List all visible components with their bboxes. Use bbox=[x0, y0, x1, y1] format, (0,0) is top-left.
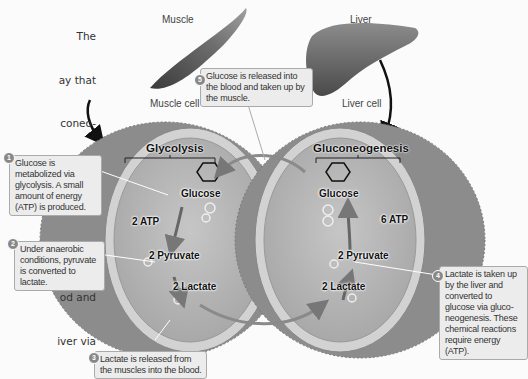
liver-label: Liver bbox=[350, 14, 372, 25]
muscle-glucose-label: Glucose bbox=[181, 188, 220, 199]
muscle-pyruvate-label: 2 Pyruvate bbox=[149, 250, 200, 261]
glycolysis-title: Glycolysis bbox=[146, 142, 204, 154]
callout-step-2: Under anaerobic conditions, pyruvate is … bbox=[14, 241, 105, 291]
muscle-lactate-label: 2 Lactate bbox=[173, 281, 216, 292]
callout-step-1: Glucose is metabolized via glycolysis. A… bbox=[9, 155, 102, 216]
liver-organ bbox=[306, 23, 418, 96]
step-4-badge: 4 bbox=[432, 270, 444, 282]
muscle-label: Muscle bbox=[162, 14, 194, 25]
liver-cell-label: Liver cell bbox=[342, 98, 381, 109]
liver-glucose-label: Glucose bbox=[319, 188, 358, 199]
callout-step-5: Glucose is released into the blood and t… bbox=[200, 68, 313, 107]
step-5-badge: 5 bbox=[194, 74, 206, 86]
step-3-badge: 3 bbox=[88, 352, 100, 364]
callout-step-4: Lactate is taken up by the liver and con… bbox=[439, 266, 528, 360]
muscle-atp-label: 2 ATP bbox=[132, 216, 159, 227]
step-1-badge: 1 bbox=[3, 152, 15, 164]
gluconeogenesis-title: Gluconeogenesis bbox=[313, 142, 409, 154]
step-2-badge: 2 bbox=[7, 238, 19, 250]
liver-lactate-label: 2 Lactate bbox=[322, 281, 365, 292]
liver-atp-label: 6 ATP bbox=[381, 214, 408, 225]
callout-step-3: Lactate is released from the muscles int… bbox=[94, 351, 207, 379]
liver-pyruvate-label: 2 Pyruvate bbox=[338, 250, 389, 261]
muscle-cell-label: Muscle cell bbox=[150, 98, 199, 109]
